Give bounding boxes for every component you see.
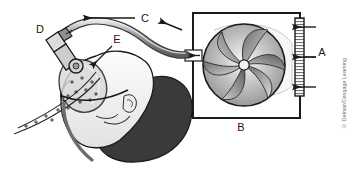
label-c: C [141,12,149,24]
impeller-fan [203,24,292,106]
copyright-notice: © Delmar/Cengage Learning [341,58,347,129]
label-e: E [113,33,120,45]
label-d: D [36,23,44,35]
label-b: B [237,121,244,133]
elbow-connector [46,26,83,73]
figure-canvas: A B C D E © Delmar/Cengage Learning [0,0,348,190]
label-a: A [318,46,326,58]
cpap-illustration: A B C D E [0,0,348,190]
